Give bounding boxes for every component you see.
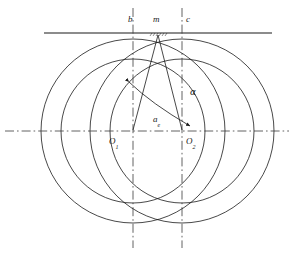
label-distance-ae-subscript: e (158, 122, 161, 128)
label-distance-ae-base: a (153, 114, 158, 124)
label-point-c: c (186, 15, 190, 24)
label-point-m: m (153, 15, 160, 24)
label-center-O2-base: O (186, 136, 193, 146)
label-distance-ae: ae (153, 115, 160, 126)
label-point-b: b (128, 15, 133, 24)
geometry-diagram: b m c O1 O2 α ae (0, 0, 294, 253)
label-center-O2-subscript: 2 (193, 144, 196, 150)
label-center-O1: O1 (109, 137, 119, 148)
label-center-O1-base: O (109, 136, 116, 146)
label-center-O1-subscript: 1 (116, 144, 119, 150)
label-angle-alpha: α (190, 88, 196, 97)
spoke-m-to-O2 (158, 35, 182, 130)
geometry-canvas (0, 0, 294, 253)
label-center-O2: O2 (186, 137, 196, 148)
